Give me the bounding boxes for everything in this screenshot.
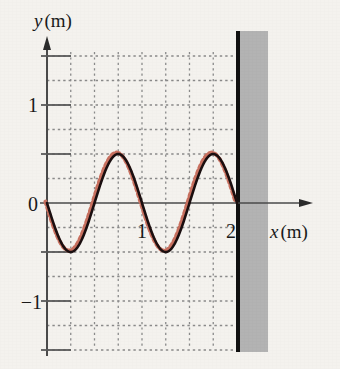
wave-figure: y(m) x(m) 1 0 −1 1 2 xyxy=(0,0,340,369)
y-tick-label-minus-1: −1 xyxy=(21,291,42,313)
y-axis-title-unit: (m) xyxy=(44,10,71,32)
x-axis-title: x(m) xyxy=(269,221,308,243)
y-tick-label-0: 0 xyxy=(28,193,38,215)
x-tick-label-1: 1 xyxy=(137,220,147,242)
wall-fill xyxy=(240,31,268,352)
x-axis-title-variable: x xyxy=(269,221,279,242)
y-tick-label-1: 1 xyxy=(28,94,38,116)
x-tick-label-2: 2 xyxy=(226,220,236,242)
y-axis-title: y(m) xyxy=(32,10,72,32)
x-axis-title-unit: (m) xyxy=(280,221,307,243)
wall xyxy=(236,31,268,352)
y-axis-title-variable: y xyxy=(32,10,43,31)
wall-boundary-line xyxy=(236,31,240,352)
figure-canvas: y(m) x(m) 1 0 −1 1 2 xyxy=(0,0,340,369)
